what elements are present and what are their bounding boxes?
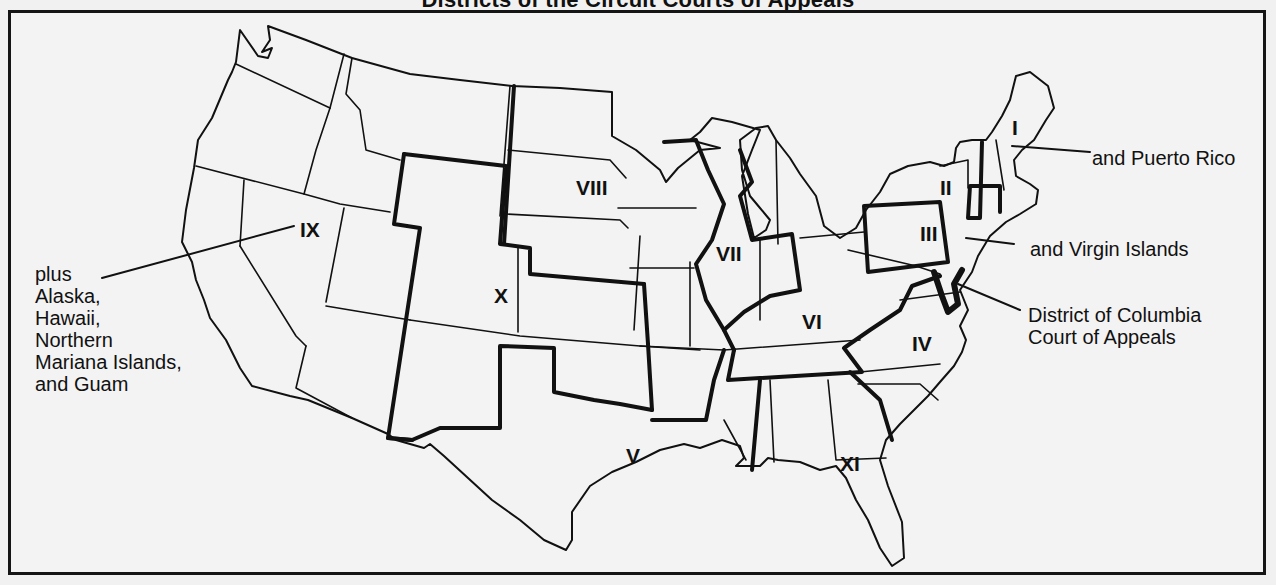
circuit-label-iii: III (920, 222, 938, 246)
circuit-label-viii: VIII (576, 176, 608, 200)
first-circuit-note: and Puerto Rico (1092, 147, 1235, 169)
us-circuit-map (0, 0, 1276, 585)
circuit-label-i: I (1012, 116, 1018, 140)
note-line: District of Columbia (1028, 304, 1201, 326)
dc-circuit-note: District of Columbia Court of Appeals (1028, 304, 1201, 348)
note-line: Hawaii, (35, 307, 182, 329)
us-outline (182, 26, 1054, 566)
note-line: Court of Appeals (1028, 326, 1201, 348)
circuit-label-iv: IV (912, 332, 932, 356)
circuit-label-xi: XI (840, 452, 860, 476)
note-line: Alaska, (35, 285, 182, 307)
circuit-label-vii: VII (716, 242, 742, 266)
circuit-label-vi: VI (802, 310, 822, 334)
third-circuit-note: and Virgin Islands (1030, 238, 1189, 260)
circuit-label-x: X (494, 284, 508, 308)
circuit-label-ii: II (940, 176, 952, 200)
note-line: Northern (35, 329, 182, 351)
ninth-circuit-note: plus Alaska, Hawaii, Northern Mariana Is… (35, 263, 182, 395)
circuit-label-ix: IX (300, 218, 320, 242)
note-line: Mariana Islands, (35, 351, 182, 373)
circuit-label-v: V (626, 444, 640, 468)
note-line: and Guam (35, 373, 182, 395)
note-line: plus (35, 263, 182, 285)
circuit-boundaries (388, 86, 1000, 470)
